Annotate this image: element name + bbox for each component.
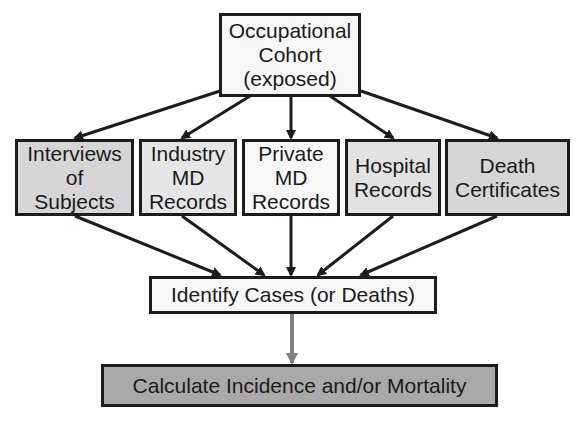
identify-cases-label: Identify Cases (or Deaths) xyxy=(171,283,415,307)
hospital-records-box: Hospital Records xyxy=(345,139,441,216)
calculate-incidence-label: Calculate Incidence and/or Mortality xyxy=(133,374,467,398)
occupational-cohort-label: Occupational Cohort (exposed) xyxy=(229,19,352,91)
hospital-records-label: Hospital Records xyxy=(354,154,432,202)
industry-md-label: Industry MD Records xyxy=(149,142,227,214)
calculate-incidence-box: Calculate Incidence and/or Mortality xyxy=(101,364,498,407)
industry-md-box: Industry MD Records xyxy=(139,139,237,216)
identify-cases-box: Identify Cases (or Deaths) xyxy=(149,276,437,314)
interviews-label: Interviews of Subjects xyxy=(27,142,122,214)
private-md-box: Private MD Records xyxy=(242,139,340,216)
occupational-cohort-box: Occupational Cohort (exposed) xyxy=(219,13,361,97)
death-certificates-label: Death Certificates xyxy=(455,154,560,202)
interviews-box: Interviews of Subjects xyxy=(15,139,134,216)
death-certificates-box: Death Certificates xyxy=(445,139,570,216)
private-md-label: Private MD Records xyxy=(252,142,330,214)
